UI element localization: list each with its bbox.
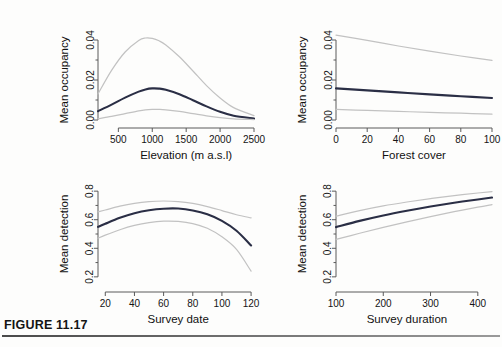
x-tick-label: 500 xyxy=(110,134,127,145)
x-tick-label: 20 xyxy=(100,298,112,309)
x-tick-label: 2000 xyxy=(209,134,232,145)
estimate-curve xyxy=(98,208,251,245)
panel-detection-duration: 0.20.40.60.8Mean detection100200300400Su… xyxy=(290,172,495,322)
y-tick-label: 0.2 xyxy=(323,269,334,283)
x-tick-label: 0 xyxy=(333,134,339,145)
y-axis-title: Mean detection xyxy=(58,195,70,274)
panel-detection-date-svg: 0.20.40.60.8Mean detection20406080100120… xyxy=(52,172,257,322)
estimate-curve xyxy=(336,88,492,98)
y-axis-title: Mean detection xyxy=(296,195,308,274)
figure-root: 0.000.020.04Mean occupancy50010001500200… xyxy=(0,0,502,347)
x-tick-label: 60 xyxy=(158,298,170,309)
x-tick-label: 20 xyxy=(362,134,374,145)
y-tick-label: 0.02 xyxy=(323,70,334,90)
y-tick-label: 0.6 xyxy=(85,212,96,226)
estimate-curve xyxy=(336,198,492,228)
figure-caption-block: FIGURE 11.17 xyxy=(0,318,502,347)
curves-group xyxy=(336,192,492,240)
x-tick-label: 1000 xyxy=(141,134,164,145)
y-tick-label: 0.2 xyxy=(85,269,96,283)
figure-caption-label: FIGURE 11.17 xyxy=(0,318,502,332)
ci-lower-curve xyxy=(98,221,251,271)
x-tick-label: 2500 xyxy=(243,134,266,145)
panel-occupancy-forest: 0.000.020.04Mean occupancy020406080100Fo… xyxy=(290,8,495,158)
y-axis-title: Mean occupancy xyxy=(58,36,70,123)
figure-caption-subtext xyxy=(0,339,502,347)
x-tick-label: 100 xyxy=(214,298,231,309)
panel-detection-date: 0.20.40.60.8Mean detection20406080100120… xyxy=(52,172,257,322)
y-tick-label: 0.02 xyxy=(85,70,96,90)
y-tick-label: 0.00 xyxy=(323,110,334,130)
panel-occupancy-elevation-svg: 0.000.020.04Mean occupancy50010001500200… xyxy=(52,8,257,158)
x-axis-title: Elevation (m a.s.l) xyxy=(140,149,232,161)
x-axis-title: Forest cover xyxy=(382,149,446,161)
ci-upper-curve xyxy=(336,192,492,217)
y-tick-label: 0.04 xyxy=(85,30,96,50)
caption-divider xyxy=(2,335,500,337)
curves-group xyxy=(98,201,251,271)
curves-group xyxy=(98,38,254,120)
y-tick-label: 0.4 xyxy=(85,241,96,255)
ci-upper-curve xyxy=(98,38,254,116)
panel-occupancy-elevation: 0.000.020.04Mean occupancy50010001500200… xyxy=(52,8,257,158)
x-tick-label: 1500 xyxy=(175,134,198,145)
y-tick-label: 0.04 xyxy=(323,30,334,50)
x-tick-label: 80 xyxy=(187,298,199,309)
x-tick-label: 100 xyxy=(328,298,345,309)
x-tick-label: 60 xyxy=(424,134,436,145)
x-tick-label: 100 xyxy=(484,134,501,145)
y-tick-label: 0.4 xyxy=(323,241,334,255)
y-tick-label: 0.6 xyxy=(323,212,334,226)
y-tick-label: 0.00 xyxy=(85,110,96,130)
panel-occupancy-forest-svg: 0.000.020.04Mean occupancy020406080100Fo… xyxy=(290,8,495,158)
x-tick-label: 300 xyxy=(422,298,439,309)
x-tick-label: 200 xyxy=(375,298,392,309)
ci-lower-curve xyxy=(336,109,492,114)
x-tick-label: 400 xyxy=(469,298,486,309)
y-tick-label: 0.8 xyxy=(85,184,96,198)
ci-upper-curve xyxy=(336,35,492,60)
curves-group xyxy=(336,35,492,114)
y-axis-title: Mean occupancy xyxy=(296,36,308,123)
x-tick-label: 80 xyxy=(455,134,467,145)
x-tick-label: 120 xyxy=(243,298,260,309)
x-tick-label: 40 xyxy=(393,134,405,145)
x-tick-label: 40 xyxy=(129,298,141,309)
y-tick-label: 0.8 xyxy=(323,184,334,198)
panel-detection-duration-svg: 0.20.40.60.8Mean detection100200300400Su… xyxy=(290,172,495,322)
